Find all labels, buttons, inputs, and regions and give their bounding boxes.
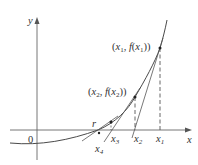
point-x4 — [98, 132, 100, 134]
point-label-x1: (x1, f(x1)) — [112, 41, 151, 54]
point-x1 — [159, 47, 162, 50]
x-axis-arrow-icon — [185, 128, 192, 133]
x-axis-label: x — [186, 134, 192, 145]
tick-label-x1: x1 — [155, 133, 164, 146]
tick-label-x4: x4 — [94, 143, 104, 156]
tangent-at-x1 — [132, 38, 163, 138]
function-curve — [10, 20, 167, 144]
point-label-x2: (x2, f(x2)) — [88, 86, 127, 99]
root-label: r — [92, 118, 97, 129]
point-x3 — [110, 121, 113, 124]
newton-method-diagram: y x 0 r (x1, f(x1)) (x2, f(x2)) x1 x2 x3… — [0, 0, 198, 165]
tick-label-x3: x3 — [110, 133, 120, 146]
tick-label-x2: x2 — [133, 133, 143, 146]
y-axis-label: y — [27, 15, 33, 26]
point-x2 — [134, 96, 137, 99]
origin-label: 0 — [28, 134, 33, 145]
y-axis-arrow-icon — [35, 17, 40, 24]
